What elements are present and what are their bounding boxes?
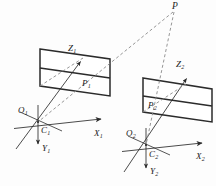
label-origin-left: O1 xyxy=(18,106,28,115)
label-z-axis-left: Z1 xyxy=(68,44,76,53)
label-world-point: P xyxy=(172,2,178,12)
left-x-axis xyxy=(14,119,101,129)
right-x-axis xyxy=(122,143,202,152)
left-image-plane xyxy=(40,49,110,96)
label-y-axis-right: Y2 xyxy=(150,167,158,176)
label-image-point-right: P2 xyxy=(148,101,157,110)
right-camera-center-dot xyxy=(145,144,147,146)
figure-canvas xyxy=(0,0,216,186)
label-x-axis-left: X1 xyxy=(94,129,103,138)
label-image-point-left: P1 xyxy=(82,79,91,88)
label-z-axis-right: Z2 xyxy=(176,60,184,69)
label-camera-center-right: C2 xyxy=(149,150,158,159)
label-x-axis-right: X2 xyxy=(196,152,205,161)
label-y-axis-left: Y1 xyxy=(42,144,50,153)
stereo-projection-figure: P P1 P2 O1 O2 C1 C2 X1 X2 Y1 Y2 Z1 Z2 xyxy=(0,0,216,186)
label-origin-right: O2 xyxy=(126,129,136,138)
left-camera-center-dot xyxy=(37,121,39,123)
label-camera-center-left: C1 xyxy=(41,126,50,135)
